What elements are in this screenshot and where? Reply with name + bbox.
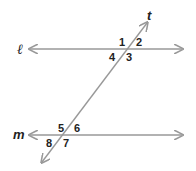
angle-6: 6	[74, 122, 80, 134]
angle-1: 1	[119, 36, 125, 48]
label-t: t	[147, 8, 152, 23]
label-l: ℓ	[17, 42, 23, 57]
transversal-t	[42, 23, 147, 162]
angle-7: 7	[63, 137, 69, 149]
label-m: m	[13, 127, 25, 142]
angle-8: 8	[46, 137, 52, 149]
angle-2: 2	[136, 36, 142, 48]
diagram-canvas: ℓ m t 1 2 3 4 5 6 7 8	[0, 0, 196, 171]
angle-5: 5	[58, 122, 64, 134]
angle-3: 3	[126, 51, 132, 63]
angle-4: 4	[109, 51, 116, 63]
